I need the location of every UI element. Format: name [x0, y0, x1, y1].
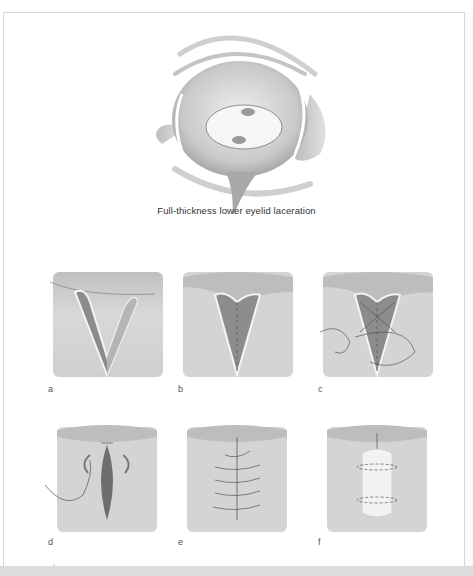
- panel-d: d: [45, 415, 175, 545]
- page-margin: [465, 12, 473, 566]
- panel-label-c: c: [318, 384, 323, 394]
- bottom-band: [0, 566, 473, 576]
- eyelid-laceration-illustration: [140, 14, 340, 214]
- panel-label-e: e: [178, 537, 183, 547]
- panel-b: b: [175, 262, 305, 392]
- panel-label-b: b: [178, 384, 183, 394]
- main-caption: Full-thickness lower eyelid laceration: [0, 205, 473, 216]
- panel-label-a: a: [48, 384, 53, 394]
- panel-a: a: [45, 262, 175, 392]
- panel-label-f: f: [318, 537, 321, 547]
- panel-e: e: [175, 415, 305, 545]
- panel-label-d: d: [48, 537, 53, 547]
- panel-c: c: [315, 262, 445, 392]
- panel-f: f: [315, 415, 445, 545]
- speck: •: [53, 562, 55, 568]
